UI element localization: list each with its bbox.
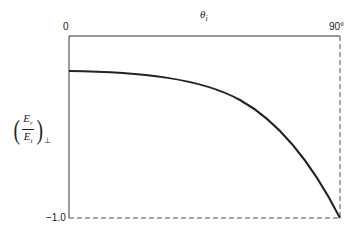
x-tick-end: 90° bbox=[329, 21, 344, 32]
y-label-fraction: Er Ei bbox=[22, 112, 33, 147]
right-paren: ) bbox=[36, 116, 43, 144]
x-axis-label: θi bbox=[200, 8, 208, 23]
y-axis-label: ( Er Ei ) ⊥ bbox=[12, 112, 51, 147]
y-label-denominator: Ei bbox=[24, 130, 33, 147]
theta-subscript: i bbox=[205, 14, 207, 23]
perpendicular-subscript: ⊥ bbox=[44, 136, 51, 145]
left-paren: ( bbox=[13, 116, 20, 144]
x-tick-start: 0 bbox=[63, 21, 69, 32]
numerator-subscript: r bbox=[30, 119, 33, 127]
reflection-coefficient-curve bbox=[69, 71, 340, 218]
y-label-numerator: Er bbox=[22, 112, 33, 130]
denominator-subscript: i bbox=[30, 137, 32, 145]
y-tick-bottom: −1.0 bbox=[46, 212, 66, 223]
